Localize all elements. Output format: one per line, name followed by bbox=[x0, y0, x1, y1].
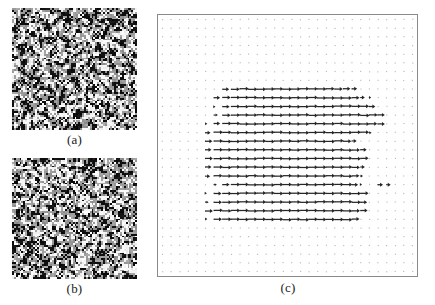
quiver-vector-field bbox=[158, 15, 417, 276]
panel-c-quiver-plot bbox=[157, 14, 418, 277]
panel-a-label: (a) bbox=[12, 133, 137, 147]
speckle-canvas-b bbox=[12, 158, 137, 279]
panel-b-label: (b) bbox=[12, 282, 137, 296]
panel-b-speckle-image bbox=[12, 158, 137, 279]
quiver-arrows bbox=[205, 87, 391, 222]
quiver-grid-dots bbox=[162, 19, 414, 273]
speckle-canvas-a bbox=[12, 8, 137, 130]
panel-a-speckle-image bbox=[12, 8, 137, 130]
figure-container: (a) (b) (c) bbox=[0, 0, 435, 305]
panel-c-label: (c) bbox=[157, 281, 419, 295]
